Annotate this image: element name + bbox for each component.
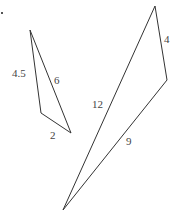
large-triangle — [63, 6, 167, 210]
dot-marker — [1, 12, 3, 14]
side-label-4.5: 4.5 — [12, 68, 26, 79]
side-label-12: 12 — [92, 99, 103, 110]
side-label-4: 4 — [164, 34, 170, 45]
side-label-9: 9 — [126, 136, 132, 147]
small-triangle — [30, 30, 71, 133]
side-label-6: 6 — [54, 75, 60, 86]
side-label-2: 2 — [50, 130, 56, 141]
similar-triangles-diagram — [0, 0, 180, 211]
